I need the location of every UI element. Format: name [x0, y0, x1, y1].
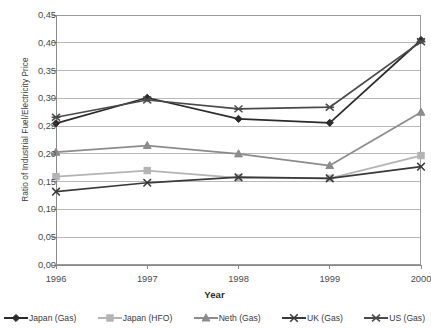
legend-swatch — [4, 312, 28, 323]
legend-label: Japan (HFO) — [123, 313, 173, 323]
x-axis-tick-label: 1996 — [46, 274, 67, 284]
x-axis-tick-label: 1999 — [319, 274, 340, 284]
marker-triangle — [202, 314, 210, 321]
marker-diamond — [12, 314, 19, 321]
legend-label: Neth (Gas) — [219, 313, 261, 323]
legend-item[interactable]: UK (Gas) — [282, 312, 343, 323]
legend-item[interactable]: Japan (Gas) — [4, 312, 76, 323]
legend-marker-diamond-icon — [9, 311, 23, 325]
legend-marker-triangle-icon — [199, 311, 213, 325]
legend-label: UK (Gas) — [307, 313, 343, 323]
legend-label: Japan (Gas) — [29, 313, 76, 323]
marker-x — [290, 314, 298, 322]
legend-marker-asterisk-icon — [369, 311, 383, 325]
legend-label: US (Gas) — [389, 313, 425, 323]
legend-marker-square-icon — [103, 311, 117, 325]
x-axis-tick-label: 1998 — [228, 274, 249, 284]
x-axis-title: Year — [0, 289, 429, 300]
legend-item[interactable]: Japan (HFO) — [98, 312, 173, 323]
legend-swatch — [364, 312, 388, 323]
legend-swatch — [194, 312, 218, 323]
marker-asterisk — [372, 315, 381, 322]
legend-swatch — [282, 312, 306, 323]
x-axis-tick-label: 1997 — [137, 274, 158, 284]
legend-item[interactable]: US (Gas) — [364, 312, 425, 323]
marker-square — [106, 315, 112, 321]
chart-legend: Japan (Gas)Japan (HFO)Neth (Gas)UK (Gas)… — [0, 307, 429, 328]
legend-item[interactable]: Neth (Gas) — [194, 312, 261, 323]
x-axis-tick-label: 2000 — [411, 274, 431, 284]
legend-marker-x-icon — [287, 311, 301, 325]
legend-swatch — [98, 312, 122, 323]
